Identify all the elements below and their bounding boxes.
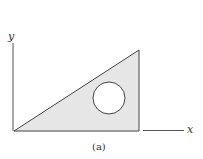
y-axis-label: y — [7, 30, 15, 43]
circular-hole — [93, 82, 125, 114]
figure-caption: (a) — [92, 141, 106, 152]
diagram: y x (a) — [0, 0, 203, 159]
x-axis-label: x — [187, 123, 194, 136]
